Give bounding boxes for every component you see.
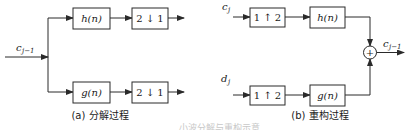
- arrow-h-to-sum: [345, 17, 370, 46]
- upsample-bottom-label: 1 ↑ 2: [254, 90, 281, 101]
- input-label-subscript: j−1: [20, 47, 35, 55]
- filter-g-label: g(n): [81, 87, 102, 98]
- downsample-top-label: 2 ↓ 1: [136, 13, 163, 24]
- input-dj-label: d: [221, 73, 227, 84]
- filter-g-recon-label: g(n): [317, 90, 338, 101]
- caption-a: (a) 分解过程: [71, 109, 128, 121]
- upsample-top-label: 1 ↑ 2: [254, 12, 281, 23]
- figure-caption-partial: ……小波分解与重构示意: [161, 122, 260, 130]
- decomposition-diagram: c j−1 h(n) 2 ↓ 1 g(n) 2 ↓ 1 (a) 分解过程: [5, 8, 184, 121]
- arrow-g-to-sum: [345, 59, 370, 95]
- filter-h-label: h(n): [81, 13, 102, 24]
- downsample-bottom-label: 2 ↓ 1: [136, 87, 163, 98]
- output-label-subscript: j−1: [387, 43, 402, 51]
- reconstruction-diagram: c j 1 ↑ 2 h(n) d j 1 ↑ 2 g(n) + c j−1 (b…: [221, 1, 404, 121]
- filter-h-recon-label: h(n): [317, 12, 338, 23]
- sum-symbol: +: [366, 47, 374, 58]
- caption-b: (b) 重构过程: [291, 109, 348, 121]
- wavelet-diagram: c j−1 h(n) 2 ↓ 1 g(n) 2 ↓ 1 (a) 分解过程 c j…: [0, 0, 409, 130]
